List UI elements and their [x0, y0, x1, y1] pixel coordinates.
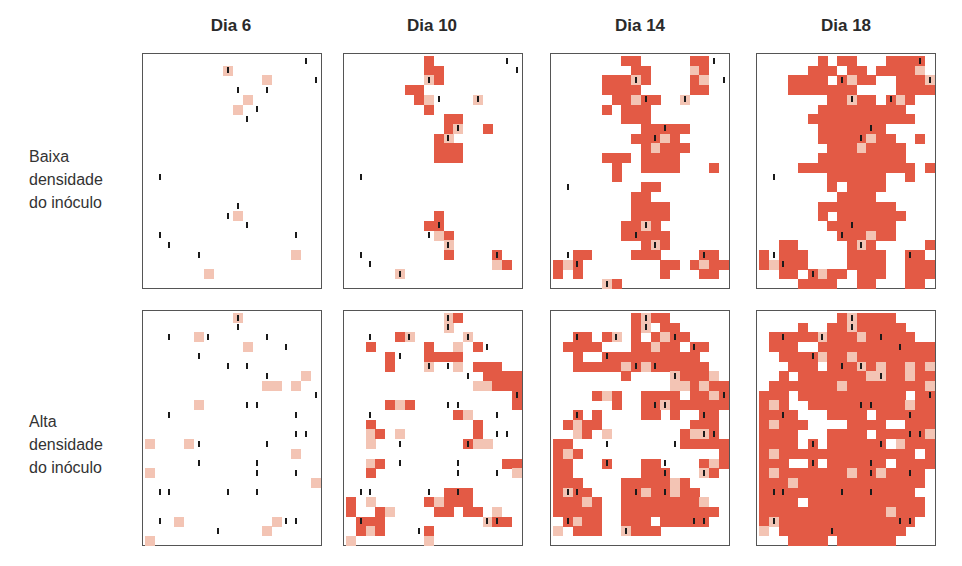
inoculum-mark — [447, 402, 449, 408]
infected-cell — [818, 400, 828, 410]
infected-cell — [651, 507, 661, 517]
infected-cell — [847, 488, 857, 498]
infected-cell — [759, 497, 769, 507]
infected-cell — [876, 391, 886, 401]
infected-cell — [886, 400, 896, 410]
infected-cell — [346, 507, 356, 517]
row-label-line: densidade — [29, 168, 103, 191]
infected-cell — [385, 362, 395, 372]
infected-cell — [788, 260, 798, 270]
infected-cell — [788, 468, 798, 478]
infected-cell — [612, 95, 622, 105]
inoculum-mark — [929, 77, 931, 83]
inoculum-mark — [198, 353, 200, 359]
infected-cell — [631, 105, 641, 115]
inoculum-mark — [237, 324, 239, 330]
infected-cell — [866, 221, 876, 231]
infected-cell — [827, 182, 837, 192]
initial-lesion-cell — [651, 143, 661, 153]
infected-cell — [808, 362, 818, 372]
infected-cell — [759, 478, 769, 488]
infected-cell — [896, 362, 906, 372]
infected-cell — [612, 163, 622, 173]
inoculum-mark — [723, 77, 725, 83]
infected-cell — [699, 66, 709, 76]
infected-cell — [905, 332, 915, 342]
infected-cell — [788, 517, 798, 527]
infected-cell — [631, 114, 641, 124]
initial-lesion-cell — [709, 459, 719, 469]
infected-cell — [660, 391, 670, 401]
infected-cell — [690, 381, 700, 391]
inoculum-mark — [812, 353, 814, 359]
infected-cell — [896, 75, 906, 85]
inoculum-mark — [467, 334, 469, 340]
infected-cell — [759, 429, 769, 439]
infected-cell — [827, 202, 837, 212]
infected-cell — [925, 410, 935, 420]
infected-cell — [857, 313, 867, 323]
infected-cell — [798, 85, 808, 95]
infected-cell — [847, 410, 857, 420]
infected-cell — [660, 362, 670, 372]
inoculum-mark — [909, 431, 911, 437]
infected-cell — [798, 279, 808, 289]
initial-lesion-cell — [473, 439, 483, 449]
infected-cell — [857, 211, 867, 221]
infected-cell — [492, 362, 502, 372]
infected-cell — [837, 449, 847, 459]
infected-cell — [857, 182, 867, 192]
infected-cell — [631, 211, 641, 221]
inoculum-mark — [870, 402, 872, 408]
infected-cell — [690, 260, 700, 270]
initial-lesion-cell — [492, 260, 502, 270]
infected-cell — [592, 517, 602, 527]
infected-cell — [915, 371, 925, 381]
infected-cell — [905, 114, 915, 124]
infected-cell — [592, 507, 602, 517]
infected-cell — [769, 459, 779, 469]
infected-cell — [925, 449, 935, 459]
infected-cell — [651, 410, 661, 420]
infected-cell — [876, 449, 886, 459]
infected-cell — [660, 323, 670, 333]
infected-cell — [818, 391, 828, 401]
inoculum-mark — [168, 412, 170, 418]
infected-cell — [876, 400, 886, 410]
infected-cell — [798, 332, 808, 342]
initial-lesion-cell — [769, 260, 779, 270]
infected-cell — [563, 478, 573, 488]
infected-cell — [434, 134, 444, 144]
initial-lesion-cell — [492, 507, 502, 517]
infected-cell — [651, 250, 661, 260]
infected-cell — [886, 449, 896, 459]
infected-cell — [483, 124, 493, 134]
infected-cell — [690, 400, 700, 410]
inoculum-mark — [890, 96, 892, 102]
inoculum-mark — [870, 460, 872, 466]
infected-cell — [886, 517, 896, 527]
inoculum-mark — [428, 77, 430, 83]
infected-cell — [866, 381, 876, 391]
inoculum-mark — [266, 334, 268, 340]
infected-cell — [612, 391, 622, 401]
infected-cell — [827, 163, 837, 173]
infected-cell — [866, 332, 876, 342]
initial-lesion-cell — [233, 211, 243, 221]
infected-cell — [818, 517, 828, 527]
initial-lesion-cell — [272, 517, 282, 527]
infected-cell — [699, 391, 709, 401]
infected-cell — [690, 362, 700, 372]
panel-high-density-day-14 — [550, 310, 730, 546]
inoculum-mark — [567, 252, 569, 258]
infected-cell — [453, 352, 463, 362]
initial-lesion-cell — [670, 488, 680, 498]
infected-cell — [896, 143, 906, 153]
infected-cell — [827, 362, 837, 372]
infected-cell — [779, 269, 789, 279]
infected-cell — [709, 381, 719, 391]
infected-cell — [651, 468, 661, 478]
initial-lesion-cell — [690, 429, 700, 439]
infected-cell — [905, 66, 915, 76]
infected-cell — [915, 279, 925, 289]
